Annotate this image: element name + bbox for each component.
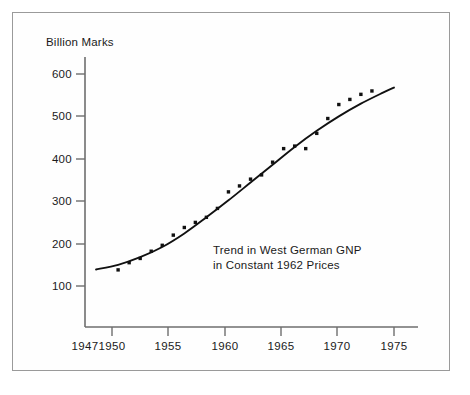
data-point	[271, 160, 274, 163]
annotation-line-1: Trend in West German GNP	[213, 243, 362, 258]
data-point	[150, 250, 153, 253]
data-point	[337, 103, 340, 106]
x-tick-label-1955: 1955	[148, 340, 188, 352]
data-point	[370, 89, 373, 92]
data-point	[127, 261, 130, 264]
data-point	[216, 207, 219, 210]
y-axis-title: Billion Marks	[46, 36, 114, 48]
x-tick-label-1950: 1950	[92, 340, 132, 352]
data-point	[172, 233, 175, 236]
y-tick-label-500: 500	[38, 110, 72, 122]
data-point	[348, 98, 351, 101]
y-tick-label-100: 100	[38, 280, 72, 292]
y-tick-label-200: 200	[38, 238, 72, 250]
data-point	[282, 147, 285, 150]
y-tick-label-600: 600	[38, 68, 72, 80]
data-point	[326, 117, 329, 120]
data-point	[359, 93, 362, 96]
data-point	[183, 226, 186, 229]
data-point	[238, 184, 241, 187]
data-point	[260, 173, 263, 176]
x-tick-label-1960: 1960	[205, 340, 245, 352]
data-point	[205, 216, 208, 219]
data-point	[315, 132, 318, 135]
y-tick-label-300: 300	[38, 195, 72, 207]
data-point	[116, 268, 119, 271]
y-tick-label-400: 400	[38, 153, 72, 165]
data-point	[194, 221, 197, 224]
data-point	[161, 244, 164, 247]
x-tick-label-1965: 1965	[261, 340, 301, 352]
x-tick-marks	[112, 327, 394, 336]
data-point	[138, 257, 141, 260]
chart-annotation: Trend in West German GNP in Constant 196…	[213, 243, 362, 273]
data-point	[227, 190, 230, 193]
data-point	[249, 177, 252, 180]
data-point	[304, 147, 307, 150]
annotation-line-2: in Constant 1962 Prices	[213, 258, 362, 273]
x-tick-label-1975: 1975	[374, 340, 414, 352]
y-tick-marks	[76, 74, 85, 286]
data-point	[293, 144, 296, 147]
x-tick-label-1970: 1970	[317, 340, 357, 352]
